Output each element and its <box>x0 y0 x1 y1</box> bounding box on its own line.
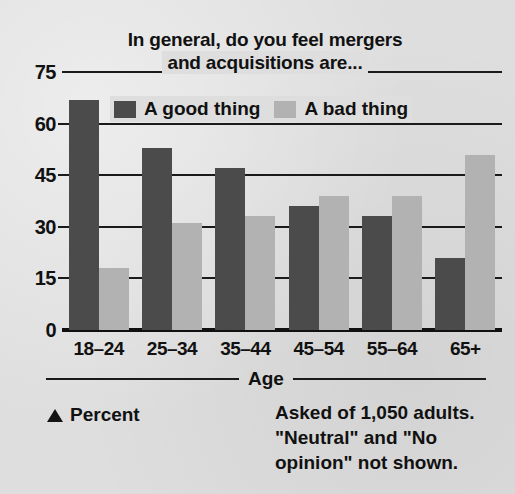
bar-good <box>435 258 465 330</box>
legend-label-bad: A bad thing <box>304 98 408 120</box>
chart-title: In general, do you feel mergers and acqu… <box>70 28 460 74</box>
y-tick-label-0: 0 <box>10 319 56 342</box>
legend-item-good: A good thing <box>114 98 260 120</box>
y-tick-label-15: 15 <box>10 267 56 290</box>
footnote-line-2: "Neutral" and "No <box>275 425 500 450</box>
x-axis-title-row: Age <box>46 366 486 392</box>
bar-bad <box>319 196 349 330</box>
y-tick-label-30: 30 <box>10 215 56 238</box>
bar-good <box>215 168 245 330</box>
bar-group <box>435 72 495 330</box>
x-axis-title: Age <box>239 368 293 390</box>
x-tick-label: 65+ <box>429 338 502 360</box>
bar-good <box>69 100 99 330</box>
legend-item-bad: A bad thing <box>274 98 408 120</box>
bar-good <box>289 206 319 330</box>
legend-swatch-good-icon <box>114 101 136 118</box>
bar-bad <box>99 268 129 330</box>
chart-legend: A good thing A bad thing <box>110 96 412 122</box>
x-tick-label: 45–54 <box>282 338 355 360</box>
x-axis-labels: 18–2425–3435–4445–5455–6465+ <box>62 338 502 364</box>
y-tick-label-60: 60 <box>10 112 56 135</box>
legend-swatch-bad-icon <box>274 101 296 118</box>
bar-bad <box>392 196 422 330</box>
bar-bad <box>172 223 202 330</box>
footnote-line-3: opinion" not shown. <box>275 450 500 475</box>
bar-bad <box>245 216 275 330</box>
footnote: Asked of 1,050 adults. "Neutral" and "No… <box>275 400 500 475</box>
bar-bad <box>465 155 495 330</box>
y-axis-ticks: 75604530150 <box>0 72 56 330</box>
legend-label-good: A good thing <box>144 98 260 120</box>
chart-page: In general, do you feel mergers and acqu… <box>0 0 515 494</box>
x-tick-label: 35–44 <box>209 338 282 360</box>
y-tick-label-75: 75 <box>10 61 56 84</box>
percent-label: Percent <box>70 404 140 426</box>
bar-good <box>362 216 392 330</box>
bar-good <box>142 148 172 330</box>
x-tick-label: 55–64 <box>355 338 428 360</box>
footnote-line-1: Asked of 1,050 adults. <box>275 400 500 425</box>
chart-title-line-2: and acquisitions are... <box>162 51 369 74</box>
chart-title-line-1: In general, do you feel mergers <box>70 28 460 51</box>
x-tick-label: 18–24 <box>62 338 135 360</box>
axis-rule-left <box>46 378 239 380</box>
y-tick-label-45: 45 <box>10 164 56 187</box>
percent-note: Percent <box>47 404 140 426</box>
x-tick-label: 25–34 <box>135 338 208 360</box>
triangle-marker-icon <box>47 409 63 422</box>
axis-rule-right <box>293 378 486 380</box>
